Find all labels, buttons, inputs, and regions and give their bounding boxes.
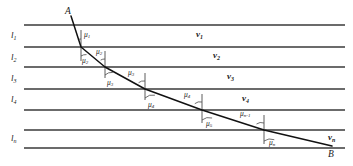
- layer-label-l4: l4: [11, 95, 16, 106]
- velocity-label-v4: v4: [242, 94, 249, 105]
- angle-arc: [101, 59, 105, 60]
- velocity-label-v2: v2: [213, 51, 220, 62]
- angle-label-mu1: μ1: [84, 31, 90, 40]
- angle-label-mun: μn: [269, 139, 275, 148]
- angle-label-mu2-lower: μ2: [82, 57, 88, 66]
- layer-label-l3: l3: [11, 74, 16, 85]
- point-label-b: B: [328, 150, 334, 160]
- angle-label-mu3-lower: μ3: [107, 79, 113, 88]
- angle-label-mu5: μ5: [206, 120, 212, 129]
- layer-label-l2: l2: [11, 53, 16, 64]
- angle-arc: [139, 81, 145, 83]
- angle-label-mu3-upper: μ3: [128, 69, 134, 78]
- velocity-label-vn: vn: [328, 133, 335, 144]
- refraction-diagram: [0, 0, 353, 166]
- velocity-label-v1: v1: [196, 30, 203, 41]
- velocity-label-v3: v3: [227, 72, 234, 83]
- interface-lines: [24, 25, 345, 148]
- angle-arc: [195, 102, 202, 104]
- angle-arc: [257, 122, 265, 124]
- layer-label-l1: l1: [11, 31, 16, 42]
- angle-arc: [145, 95, 155, 98]
- point-label-a: A: [65, 7, 71, 17]
- angle-label-mu-n-minus-1: μn-1: [240, 110, 250, 119]
- angle-label-mu4-upper: μ4: [184, 91, 190, 100]
- layer-label-ln: ln: [11, 134, 16, 145]
- figure-canvas: l1 l2 l3 l4 ln v1 v2 v3 v4 vn μ1 μ2 μ2 μ…: [0, 0, 353, 166]
- angle-label-mu4-lower: μ4: [148, 101, 154, 110]
- angle-arcs: [78, 39, 274, 141]
- angle-label-mu2-upper: μ2: [96, 48, 102, 57]
- angle-arc: [105, 72, 113, 75]
